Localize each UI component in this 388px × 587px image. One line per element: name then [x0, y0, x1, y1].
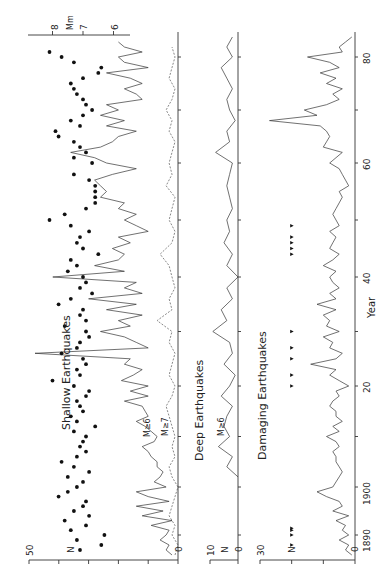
magnitude-dot — [75, 346, 79, 350]
magnitude-dot — [69, 528, 73, 532]
magnitude-dot — [78, 341, 82, 345]
magnitude-dot — [72, 173, 76, 177]
magnitude-dot — [75, 368, 79, 372]
year-axis-label: Year — [366, 296, 377, 319]
magnitude-dot — [78, 286, 82, 290]
shallow-m6-line — [35, 42, 172, 555]
earthquake-time-series-figure: Shallow Earthquakes M≥6 M≥7 Deep Earthqu… — [0, 0, 388, 587]
magnitude-dot — [84, 394, 88, 398]
magnitude-dot — [99, 66, 103, 70]
magnitude-dot — [54, 129, 58, 133]
magnitude-dot — [72, 140, 76, 144]
deep-y-0: 0 — [234, 546, 244, 552]
magnitude-dot — [72, 156, 76, 160]
magnitude-dot — [69, 119, 73, 123]
shallow-m7-line — [157, 47, 178, 555]
magnitude-dot — [84, 450, 88, 454]
magnitude-dot — [81, 98, 85, 102]
magnitude-dot — [63, 519, 67, 523]
magnitude-dot — [75, 420, 79, 424]
magnitude-dot — [78, 235, 82, 239]
damaging-triangle-marker — [290, 252, 294, 256]
magnitude-dot — [51, 379, 55, 383]
deep-panel — [210, 32, 241, 564]
magnitude-dot — [69, 258, 73, 262]
magnitude-dot — [90, 108, 94, 112]
magnitude-dot — [93, 201, 97, 205]
magnitude-dot — [87, 389, 91, 393]
magnitude-dot — [66, 490, 70, 494]
damaging-triangle-marker — [290, 330, 294, 334]
magnitude-dot — [84, 103, 88, 107]
magnitude-dot — [87, 470, 91, 474]
deep-m6-annotation: M≥6 — [217, 417, 226, 436]
chart-canvas: Shallow Earthquakes M≥6 M≥7 Deep Earthqu… — [0, 0, 388, 587]
damaging-triangle-marker — [290, 533, 294, 537]
magnitude-dot — [75, 264, 79, 268]
year-tick-1900: 1900 — [362, 482, 372, 505]
magnitude-dot — [93, 184, 97, 188]
magnitude-dot — [81, 409, 85, 413]
shallow-y-0: 0 — [174, 546, 184, 552]
magnitude-dot — [72, 60, 76, 64]
mm-tick-7: 7 — [79, 24, 89, 30]
magnitude-dot — [75, 455, 79, 459]
year-tick-1920: 20 — [362, 381, 372, 393]
magnitude-dot — [87, 178, 91, 182]
damaging-triangle-marker — [290, 224, 294, 228]
damaging-y-30: 30 — [256, 544, 266, 556]
magnitude-dot — [84, 435, 88, 439]
magnitude-dot — [84, 362, 88, 366]
magnitude-dot — [75, 241, 79, 245]
magnitude-dot — [69, 82, 73, 86]
magnitude-dot — [48, 50, 52, 54]
magnitude-dot — [72, 465, 76, 469]
deep-title: Deep Earthquakes — [193, 360, 206, 461]
magnitude-dot — [96, 71, 100, 75]
mm-tick-8: 8 — [50, 24, 60, 30]
damaging-y-label: N — [287, 546, 297, 553]
magnitude-dot — [90, 161, 94, 165]
damaging-line — [270, 37, 352, 555]
damaging-triangle-marker — [290, 346, 294, 350]
damaging-y-0: 0 — [350, 546, 360, 552]
magnitude-dot — [81, 440, 85, 444]
magnitude-dot — [84, 524, 88, 528]
magnitude-dot — [72, 87, 76, 91]
magnitude-dot — [93, 195, 97, 199]
magnitude-dot — [78, 404, 82, 408]
year-tick-1940: 40 — [362, 272, 372, 284]
magnitude-dot — [93, 190, 97, 194]
magnitude-dot — [60, 460, 64, 464]
magnitude-dot — [81, 480, 85, 484]
magnitude-dot — [84, 500, 88, 504]
magnitude-dot — [87, 230, 91, 234]
magnitude-dot — [84, 319, 88, 323]
magnitude-dot — [84, 281, 88, 285]
magnitude-dot — [66, 269, 70, 273]
shallow-title: Shallow Earthquakes — [60, 315, 73, 430]
deep-m6-line — [213, 37, 238, 477]
damaging-panel — [260, 32, 358, 564]
magnitude-dot — [103, 533, 107, 537]
deep-y-label: N — [220, 546, 230, 553]
magnitude-dot — [78, 145, 82, 149]
magnitude-dot — [78, 124, 82, 128]
year-tick-1890: 1890 — [362, 529, 372, 552]
damaging-triangle-marker — [290, 241, 294, 245]
magnitude-dot — [69, 224, 73, 228]
year-tick-1960: 60 — [362, 158, 372, 170]
magnitude-dot — [81, 308, 85, 312]
magnitude-dot — [60, 55, 64, 59]
mm-axis-label: Mm — [66, 15, 75, 30]
magnitude-dot — [63, 212, 67, 216]
damaging-triangle-marker — [290, 373, 294, 377]
magnitude-dot — [69, 297, 73, 301]
magnitude-dot — [78, 373, 82, 377]
magnitude-dot — [57, 302, 61, 306]
shallow-y-50: 50 — [25, 544, 35, 556]
damaging-triangle-marker — [290, 543, 294, 547]
magnitude-dot — [57, 495, 61, 499]
damaging-triangle-marker — [290, 247, 294, 251]
damaging-triangle-marker — [290, 235, 294, 239]
